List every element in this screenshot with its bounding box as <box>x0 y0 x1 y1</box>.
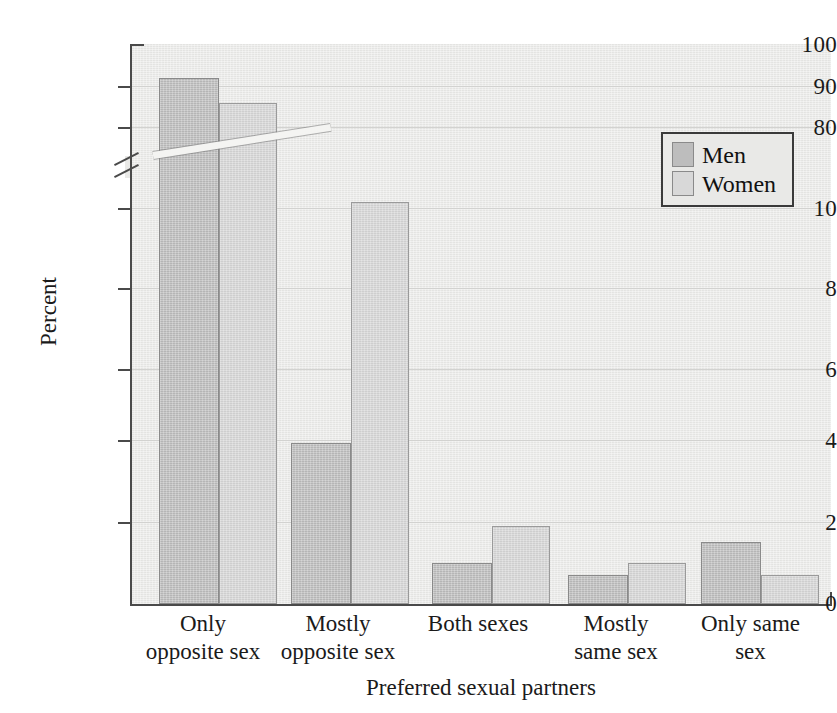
x-axis-title: Preferred sexual partners <box>131 676 831 699</box>
y-tick-4 <box>118 440 131 442</box>
bar-men-mostly-same-sex <box>568 575 628 604</box>
bar-men-both-sexes <box>432 563 492 604</box>
y-tick-8 <box>118 288 131 290</box>
legend-swatch-men-icon <box>672 142 694 167</box>
gridline-90 <box>131 86 831 87</box>
cat-line-2: sex <box>668 638 833 666</box>
y-tick-label-90: 90 <box>733 75 837 98</box>
y-axis-top-cap <box>130 44 144 46</box>
bar-men-only-opposite-sex <box>159 78 219 604</box>
legend-label-men: Men <box>702 143 746 167</box>
bar-women-only-opposite-sex <box>219 103 277 604</box>
bar-texture <box>569 576 627 603</box>
x-axis-line <box>130 604 832 606</box>
bar-texture <box>629 564 685 603</box>
bar-women-mostly-opposite-sex <box>351 202 409 604</box>
bar-texture <box>433 564 491 603</box>
y-tick-label-8: 8 <box>733 277 837 300</box>
y-axis-break-icon <box>113 150 141 184</box>
plot-area <box>131 44 831 604</box>
bar-men-mostly-opposite-sex <box>291 443 351 604</box>
y-tick-label-100: 100 <box>733 33 837 56</box>
legend: Men Women <box>661 132 794 207</box>
y-tick-2 <box>118 522 131 524</box>
y-tick-80 <box>118 127 131 129</box>
y-tick-90 <box>118 86 131 88</box>
x-category-label-only-same-sex: Only same sex <box>668 610 833 666</box>
y-tick-label-4: 4 <box>733 429 837 452</box>
bar-texture <box>160 79 218 603</box>
bar-texture <box>220 104 276 603</box>
y-tick-6 <box>118 369 131 371</box>
legend-label-women: Women <box>702 172 776 196</box>
y-tick-label-2: 2 <box>733 511 837 534</box>
y-axis-title: Percent <box>37 242 60 382</box>
bar-women-mostly-same-sex <box>628 563 686 604</box>
legend-row-men: Men <box>672 140 776 169</box>
bar-texture <box>493 527 549 603</box>
bar-texture <box>352 203 408 603</box>
y-tick-10 <box>118 208 131 210</box>
legend-row-women: Women <box>672 169 776 198</box>
y-tick-label-6: 6 <box>733 358 837 381</box>
cat-line-1: Only same <box>668 610 833 638</box>
bar-women-both-sexes <box>492 526 550 604</box>
bar-chart-figure: 100 90 80 10 8 6 4 2 0 Men Women Only op… <box>0 0 837 713</box>
bar-texture <box>292 444 350 603</box>
cat-line-2: opposite sex <box>258 638 418 666</box>
legend-swatch-women-icon <box>672 171 694 196</box>
